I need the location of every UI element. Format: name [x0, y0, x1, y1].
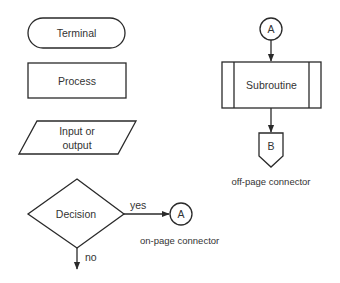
no-label: no [85, 251, 97, 263]
off-page-connector-symbol: B [259, 133, 283, 167]
yes-label: yes [130, 199, 146, 211]
subroutine-label: Subroutine [246, 79, 297, 91]
terminal-symbol: Terminal [28, 18, 125, 48]
input-output-label-line2: output [62, 139, 91, 151]
input-output-label-line1: Input or [59, 125, 95, 137]
process-label: Process [58, 75, 96, 87]
terminal-label: Terminal [57, 27, 97, 39]
flowchart-legend: Terminal Process Input or output Decisio… [0, 0, 340, 283]
top-connector-label: A [267, 23, 274, 35]
top-connector-symbol: A [260, 18, 282, 40]
on-page-connector-label: A [177, 208, 184, 220]
off-page-connector-caption: off-page connector [231, 176, 310, 187]
input-output-symbol: Input or output [19, 121, 136, 154]
decision-symbol: Decision [28, 179, 124, 248]
process-symbol: Process [28, 63, 126, 98]
off-page-connector-label: B [267, 140, 274, 152]
decision-label: Decision [56, 208, 96, 220]
on-page-connector-caption: on-page connector [140, 235, 219, 246]
on-page-connector-symbol: A [170, 203, 192, 225]
subroutine-symbol: Subroutine [222, 62, 321, 108]
